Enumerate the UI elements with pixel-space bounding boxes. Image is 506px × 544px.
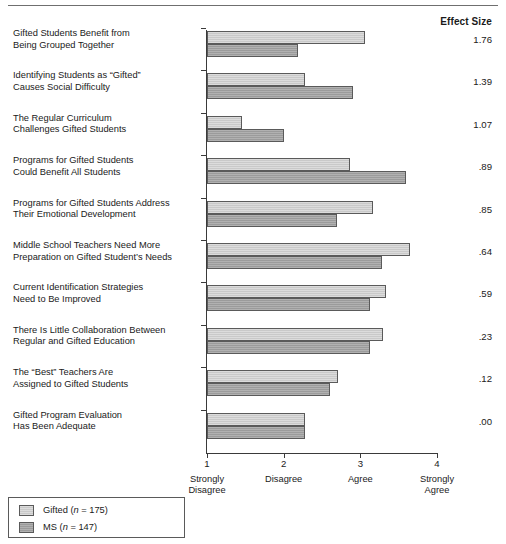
category-label-line2: Assigned to Gifted Students [13, 379, 199, 391]
x-axis-line [206, 453, 437, 454]
bar-gifted [207, 201, 373, 214]
bar-ms [207, 256, 382, 269]
x-axis-tick-number: 2 [264, 458, 304, 469]
category-label-line2: Challenges Gifted Students [13, 124, 199, 136]
y-axis-tick [201, 198, 206, 199]
bar-ms [207, 129, 284, 142]
category-label: Identifying Students as “Gifted”Causes S… [13, 70, 199, 93]
category-label-line2: Has Been Adequate [13, 421, 199, 433]
bar-gifted [207, 285, 386, 298]
x-axis-tick-label: StronglyAgree [401, 474, 473, 497]
bar-ms [207, 171, 406, 184]
category-label-line1: The Regular Curriculum [13, 113, 112, 123]
category-label-line1: There Is Little Collaboration Between [13, 325, 165, 335]
chart-figure: Effect Size Gifted Students Benefit from… [0, 0, 506, 544]
category-label-line1: Current Identification Strategies [13, 282, 143, 292]
effect-size-value: .85 [432, 204, 492, 215]
y-axis-tick [201, 325, 206, 326]
category-label-line1: Identifying Students as “Gifted” [13, 70, 141, 80]
bar-ms [207, 86, 353, 99]
category-label-line2: Being Grouped Together [13, 40, 199, 52]
bar-gifted [207, 116, 242, 129]
category-label: Middle School Teachers Need MorePreparat… [13, 240, 199, 263]
x-axis-tick-label: Disagree [248, 474, 320, 485]
bar-gifted [207, 243, 410, 256]
y-axis-tick [201, 155, 206, 156]
category-label-line1: The “Best” Teachers Are [13, 367, 113, 377]
bar-ms [207, 298, 370, 311]
y-axis-tick [201, 282, 206, 283]
plot-area: Gifted Students Benefit fromBeing Groupe… [0, 0, 506, 544]
effect-size-value: 1.39 [432, 76, 492, 87]
effect-size-value: .23 [432, 331, 492, 342]
bar-gifted [207, 413, 305, 426]
effect-size-value: .89 [432, 161, 492, 172]
legend-label-gifted: Gifted (n = 175) [43, 505, 108, 515]
category-label-line2: Could Benefit All Students [13, 167, 199, 179]
bar-gifted [207, 370, 338, 383]
bar-ms [207, 383, 330, 396]
y-axis-tick [201, 28, 206, 29]
category-label-line2: Need to Be Improved [13, 294, 199, 306]
category-label-line1: Gifted Students Benefit from [13, 28, 130, 38]
y-axis-tick [201, 70, 206, 71]
x-axis-tick-number: 1 [187, 458, 227, 469]
category-label: The “Best” Teachers AreAssigned to Gifte… [13, 367, 199, 390]
category-label-line2: Their Emotional Development [13, 209, 199, 221]
bar-ms [207, 341, 370, 354]
x-axis-tick-number: 4 [417, 458, 457, 469]
bar-gifted [207, 73, 305, 86]
legend-label-ms: MS (n = 147) [43, 522, 97, 532]
category-label-line1: Gifted Program Evaluation [13, 410, 122, 420]
category-label-line1: Programs for Gifted Students Address [13, 198, 170, 208]
y-axis-tick [201, 113, 206, 114]
category-label-line2: Regular and Gifted Education [13, 336, 199, 348]
bar-gifted [207, 31, 365, 44]
category-label-line2: Causes Social Difficulty [13, 82, 199, 94]
y-axis-tick [201, 240, 206, 241]
y-axis-tick [201, 410, 206, 411]
category-label: Programs for Gifted Students AddressThei… [13, 198, 199, 221]
category-label: There Is Little Collaboration BetweenReg… [13, 325, 199, 348]
x-axis-tick-label: Agree [324, 474, 396, 485]
legend-swatch-ms [19, 522, 34, 533]
bar-gifted [207, 158, 350, 171]
category-label: Current Identification StrategiesNeed to… [13, 282, 199, 305]
effect-size-value: .12 [432, 373, 492, 384]
legend: Gifted (n = 175) MS (n = 147) [8, 497, 185, 538]
bar-ms [207, 214, 337, 227]
effect-size-value: .00 [432, 416, 492, 427]
bar-gifted [207, 328, 383, 341]
bar-ms [207, 44, 298, 57]
category-label-line1: Programs for Gifted Students [13, 155, 133, 165]
category-label: Programs for Gifted StudentsCould Benefi… [13, 155, 199, 178]
effect-size-value: .59 [432, 288, 492, 299]
legend-swatch-gifted [19, 505, 34, 516]
legend-item-gifted: Gifted (n = 175) [19, 503, 108, 517]
legend-item-ms: MS (n = 147) [19, 520, 97, 534]
y-axis-tick [201, 367, 206, 368]
category-label: The Regular CurriculumChallenges Gifted … [13, 113, 199, 136]
category-label-line1: Middle School Teachers Need More [13, 240, 160, 250]
effect-size-value: .64 [432, 246, 492, 257]
x-axis-tick-label: StronglyDisagree [171, 474, 243, 497]
category-label-line2: Preparation on Gifted Student’s Needs [13, 252, 199, 264]
category-label: Gifted Students Benefit fromBeing Groupe… [13, 28, 199, 51]
category-label: Gifted Program EvaluationHas Been Adequa… [13, 410, 199, 433]
bar-ms [207, 426, 305, 439]
effect-size-value: 1.07 [432, 119, 492, 130]
effect-size-value: 1.76 [432, 34, 492, 45]
x-axis-tick-number: 3 [340, 458, 380, 469]
